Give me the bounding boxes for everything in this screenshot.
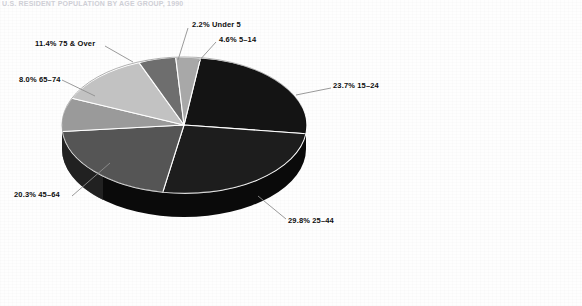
leader-75-over <box>105 46 133 62</box>
label-25-44: 29.8% 25–44 <box>288 216 334 225</box>
leader-15-24 <box>296 88 331 95</box>
label-65-74: 8.0% 65–74 <box>19 75 61 84</box>
label-under-5: 2.2% Under 5 <box>192 20 241 29</box>
chart-page: U.S. RESIDENT POPULATION BY AGE GROUP, 1… <box>0 0 582 306</box>
label-5-14: 4.6% 5–14 <box>219 35 256 44</box>
pie-chart-figure: 2.2% Under 5 4.6% 5–14 23.7% 15–24 29.8%… <box>0 0 582 306</box>
label-15-24: 23.7% 15–24 <box>333 81 379 90</box>
slice-15-24[interactable] <box>184 58 307 134</box>
label-45-64: 20.3% 45–64 <box>14 190 60 199</box>
leader-under-5 <box>178 28 188 60</box>
label-75-over: 11.4% 75 & Over <box>35 39 95 48</box>
leader-25-44 <box>258 196 286 219</box>
